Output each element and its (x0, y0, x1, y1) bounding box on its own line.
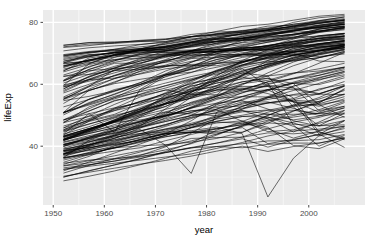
y-tick-label: 80 (29, 18, 38, 27)
chart-container: 195019601970198019902000 406080 year lif… (0, 0, 376, 250)
x-tick-label: 1970 (147, 209, 165, 218)
x-tick-label: 1980 (198, 209, 216, 218)
x-tick-label: 1960 (95, 209, 113, 218)
chart-svg: 195019601970198019902000 406080 year lif… (0, 0, 376, 250)
y-tick-label: 60 (29, 80, 38, 89)
x-axis-title: year (195, 224, 213, 235)
x-tick-label: 2000 (300, 209, 318, 218)
y-axis-title: lifeExp (2, 93, 13, 122)
x-tick-label: 1950 (44, 209, 62, 218)
x-tick-label: 1990 (249, 209, 267, 218)
y-tick-label: 40 (29, 142, 38, 151)
